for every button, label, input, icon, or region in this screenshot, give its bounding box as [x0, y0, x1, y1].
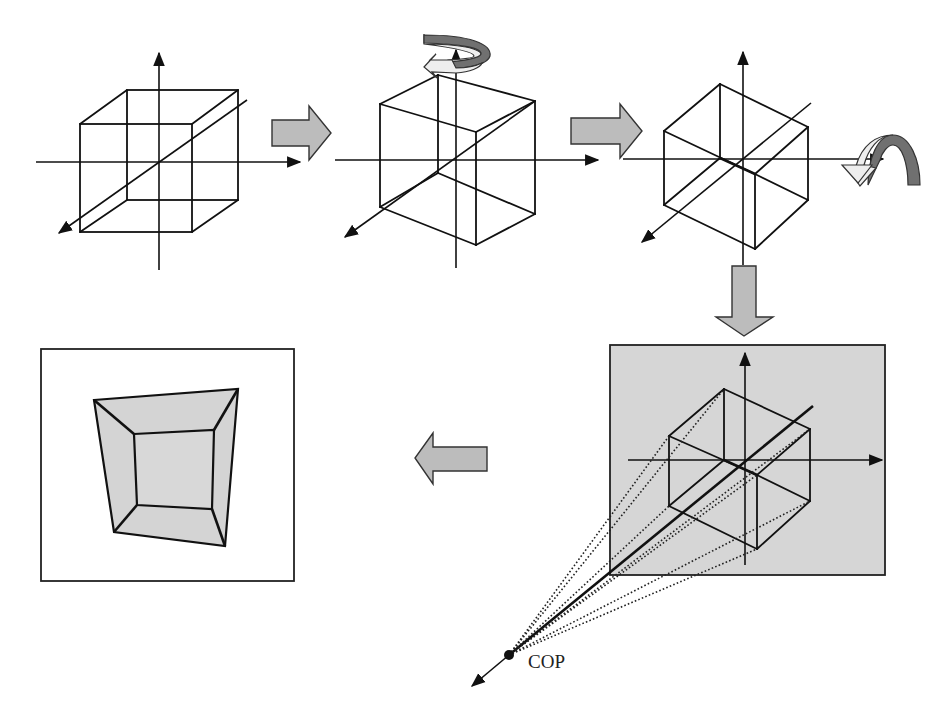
cop-label: COP	[528, 651, 565, 672]
right-arrow-icon	[272, 106, 331, 160]
coordinate-axes	[36, 53, 300, 270]
step-4-projection: COP	[472, 345, 885, 686]
cop-point	[504, 650, 514, 660]
coordinate-axes	[623, 52, 883, 265]
step-1-cube	[36, 53, 300, 270]
step-2-cube	[335, 34, 598, 268]
right-arrow-icon	[571, 104, 642, 158]
down-arrow-icon	[716, 266, 773, 336]
viewing-pipeline-diagram: COP	[0, 0, 941, 722]
projected-inner-face	[134, 430, 214, 509]
step-5-result	[41, 349, 294, 581]
cube-edges	[664, 84, 808, 249]
step-3-cube	[623, 52, 920, 265]
left-arrow-icon	[415, 433, 487, 484]
z-axis-arrow-icon	[472, 655, 509, 686]
rotate-around-x-icon	[842, 135, 920, 186]
rotate-around-y-icon	[424, 34, 490, 78]
